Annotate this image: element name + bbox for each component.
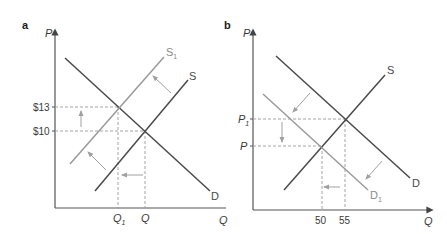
panel-a-label: a (22, 19, 29, 31)
x-tick-q1: Q1 (113, 212, 126, 226)
panel-b-guides (253, 119, 345, 210)
label-d: D (211, 190, 219, 202)
panel-a-shift-arrows (81, 76, 171, 175)
supply-demand-figure: a P Q $13 $10 Q1 Q D S S1 (0, 0, 447, 234)
panel-a-guides (55, 107, 145, 208)
arrow-lower-left-icon (88, 152, 106, 170)
x-tick-q: Q (141, 212, 150, 224)
label-s1: S1 (166, 46, 177, 60)
arrow-lower-down-left-icon (366, 161, 382, 179)
x-tick-55: 55 (339, 215, 351, 226)
supply-curve-s (284, 75, 385, 190)
x-axis-label: Q (219, 214, 228, 226)
y-tick-p: P (240, 140, 248, 152)
label-d1: D1 (370, 189, 382, 203)
arrow-upper-down-left-icon (293, 93, 310, 112)
supply-curve-s1 (70, 57, 164, 164)
panel-b: b P Q P1 P 50 55 S D D1 (224, 19, 433, 227)
label-d: D (412, 177, 420, 189)
x-tick-50: 50 (315, 215, 327, 226)
panel-a-axes: P Q (45, 27, 228, 226)
panel-b-axes: P Q (243, 27, 433, 227)
panel-a: a P Q $13 $10 Q1 Q D S S1 (22, 19, 228, 226)
arrow-upper-left-icon (153, 76, 171, 93)
y-axis-label: P (243, 27, 251, 39)
y-tick-13: $13 (33, 102, 50, 113)
y-tick-10: $10 (33, 126, 50, 137)
demand-curve-d1 (263, 94, 368, 190)
y-tick-p1: P1 (238, 113, 249, 127)
supply-curve-s (95, 80, 188, 191)
panel-b-label: b (224, 19, 231, 31)
y-axis-label: P (45, 27, 53, 39)
x-axis-label: Q (424, 215, 433, 227)
label-s: S (387, 64, 394, 76)
label-s: S (189, 70, 196, 82)
